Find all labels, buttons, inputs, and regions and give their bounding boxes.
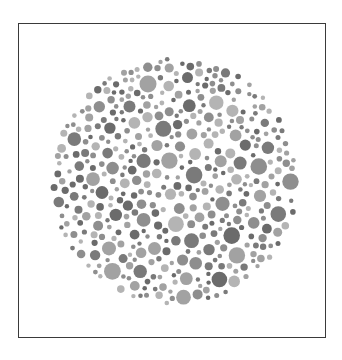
plate-dot bbox=[120, 110, 124, 114]
plate-dot bbox=[249, 234, 255, 240]
plate-dot bbox=[246, 206, 251, 211]
plate-dot bbox=[129, 70, 134, 75]
plate-dot bbox=[250, 158, 267, 175]
plate-dot bbox=[95, 123, 101, 129]
plate-dot bbox=[215, 185, 224, 194]
plate-dot bbox=[86, 172, 100, 186]
plate-dot bbox=[165, 57, 170, 62]
plate-dot bbox=[65, 204, 69, 208]
plate-dot bbox=[175, 91, 183, 99]
plate-dot bbox=[176, 175, 180, 179]
plate-dot bbox=[147, 190, 152, 195]
plate-dot bbox=[86, 93, 93, 100]
plate-dot bbox=[99, 135, 105, 141]
plate-dot bbox=[276, 196, 281, 201]
plate-dot bbox=[268, 160, 273, 165]
plate-dot bbox=[276, 135, 281, 140]
plate-dot bbox=[254, 178, 260, 184]
plate-dot bbox=[160, 101, 165, 106]
plate-dot bbox=[131, 294, 135, 298]
plate-dot bbox=[240, 263, 247, 270]
plate-dot bbox=[231, 174, 242, 185]
plate-dot bbox=[250, 135, 255, 140]
plate-dot bbox=[184, 233, 199, 248]
plate-dot bbox=[124, 149, 129, 154]
plate-dot bbox=[146, 127, 150, 131]
plate-dot bbox=[227, 222, 231, 226]
plate-dot bbox=[202, 224, 208, 230]
plate-dot bbox=[205, 164, 212, 171]
plate-dot bbox=[218, 227, 222, 231]
plate-dot bbox=[247, 92, 251, 96]
plate-dot bbox=[243, 182, 247, 186]
plate-dot bbox=[226, 105, 238, 117]
plate-dot bbox=[264, 202, 271, 209]
plate-dot bbox=[186, 167, 203, 184]
plate-dot bbox=[138, 189, 144, 195]
plate-dot bbox=[209, 96, 223, 110]
plate-dot bbox=[205, 77, 209, 81]
plate-dot bbox=[174, 71, 179, 76]
plate-dot bbox=[153, 287, 158, 292]
plate-dot bbox=[148, 259, 154, 265]
plate-dot bbox=[249, 183, 253, 187]
plate-dot bbox=[76, 175, 84, 183]
plate-dot bbox=[75, 206, 83, 214]
plate-dot bbox=[198, 284, 202, 288]
plate-dot bbox=[221, 171, 226, 176]
plate-dot bbox=[254, 129, 260, 135]
plate-dot bbox=[211, 230, 218, 237]
plate-dot bbox=[240, 140, 251, 151]
plate-dot bbox=[170, 261, 174, 265]
plate-dot bbox=[284, 150, 289, 155]
plate-dot bbox=[170, 296, 175, 301]
plate-dot bbox=[163, 81, 174, 92]
plate-dot bbox=[203, 244, 214, 255]
plate-dot bbox=[256, 137, 261, 142]
plate-dot bbox=[121, 70, 127, 76]
plate-dot bbox=[111, 236, 116, 241]
plate-dot bbox=[175, 141, 185, 151]
plate-dot bbox=[108, 203, 113, 208]
plate-dot bbox=[190, 113, 196, 119]
plate-dot bbox=[145, 234, 149, 238]
plate-dot bbox=[289, 166, 295, 172]
plate-dot bbox=[156, 192, 162, 198]
plate-dot bbox=[65, 124, 69, 128]
plate-dot bbox=[90, 189, 94, 193]
plate-dot bbox=[165, 189, 176, 200]
plate-dot bbox=[172, 273, 176, 277]
plate-dot bbox=[233, 216, 241, 224]
plate-dot bbox=[85, 114, 93, 122]
plate-dot bbox=[289, 199, 293, 203]
plate-dot bbox=[217, 113, 222, 118]
plate-dot bbox=[188, 160, 193, 165]
plate-dot bbox=[137, 154, 151, 168]
plate-dot bbox=[154, 65, 160, 71]
plate-dot bbox=[90, 250, 100, 260]
plate-dot bbox=[103, 87, 110, 94]
plate-dot bbox=[215, 148, 221, 154]
plate-dot bbox=[259, 208, 264, 213]
plate-dot bbox=[90, 165, 96, 171]
plate-dot bbox=[230, 130, 242, 142]
plate-dot bbox=[173, 120, 182, 129]
plate-dot bbox=[131, 244, 136, 249]
plate-dot bbox=[81, 149, 89, 157]
plate-dot bbox=[179, 191, 185, 197]
plate-dot bbox=[96, 203, 104, 211]
plate-dot bbox=[130, 144, 135, 149]
plate-dot bbox=[205, 262, 213, 270]
plate-dot bbox=[159, 283, 167, 291]
plate-dot bbox=[150, 202, 156, 208]
plate-dot bbox=[60, 130, 67, 137]
plate-dot bbox=[137, 199, 147, 209]
plate-dot bbox=[162, 228, 168, 234]
plate-dot bbox=[83, 139, 89, 145]
dot-plate bbox=[0, 0, 342, 360]
plate-dot bbox=[117, 197, 123, 203]
plate-dot bbox=[130, 281, 140, 291]
plate-dot bbox=[212, 173, 218, 179]
plate-dot bbox=[215, 240, 220, 245]
plate-dot bbox=[199, 233, 206, 240]
